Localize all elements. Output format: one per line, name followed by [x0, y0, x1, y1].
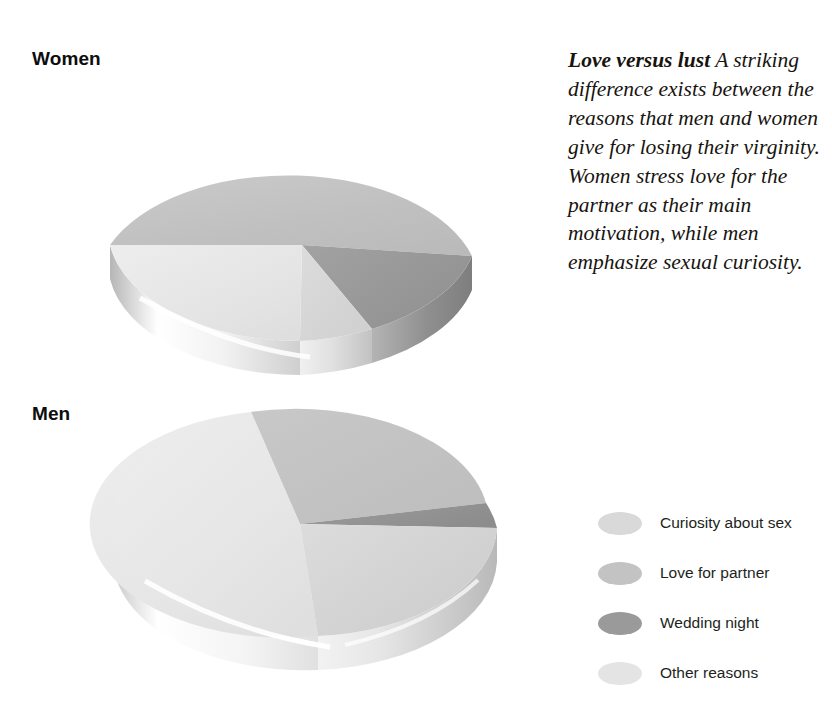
- figure-caption: Love versus lust A striking difference e…: [568, 46, 826, 277]
- chart-legend: Curiosity about sex Love for partner Wed…: [598, 498, 832, 698]
- legend-swatch-icon: [598, 512, 642, 535]
- pie-slice-love-for-partner: [110, 175, 472, 256]
- legend-item-other-reasons[interactable]: Other reasons: [598, 648, 832, 698]
- legend-item-love-for-partner[interactable]: Love for partner: [598, 548, 832, 598]
- chart-panel-men: Men: [0, 385, 560, 715]
- chart-title-men: Men: [32, 403, 70, 425]
- legend-label: Curiosity about sex: [660, 514, 792, 532]
- legend-swatch-icon: [598, 612, 642, 635]
- pie-chart-women: [0, 30, 560, 390]
- caption-body: A striking difference exists between the…: [568, 48, 820, 274]
- legend-item-curiosity-about-sex[interactable]: Curiosity about sex: [598, 498, 832, 548]
- figure-pie-charts: Women: [0, 0, 832, 715]
- legend-label: Love for partner: [660, 564, 769, 582]
- caption-lead: Love versus lust: [568, 48, 710, 72]
- pie-slice-other-reasons: [300, 524, 497, 636]
- legend-label: Other reasons: [660, 664, 758, 682]
- legend-label: Wedding night: [660, 614, 759, 632]
- pie-chart-men: [0, 385, 560, 715]
- legend-item-wedding-night[interactable]: Wedding night: [598, 598, 832, 648]
- legend-swatch-icon: [598, 562, 642, 585]
- chart-panel-women: Women: [0, 30, 560, 390]
- legend-swatch-icon: [598, 662, 642, 685]
- chart-title-women: Women: [32, 48, 101, 70]
